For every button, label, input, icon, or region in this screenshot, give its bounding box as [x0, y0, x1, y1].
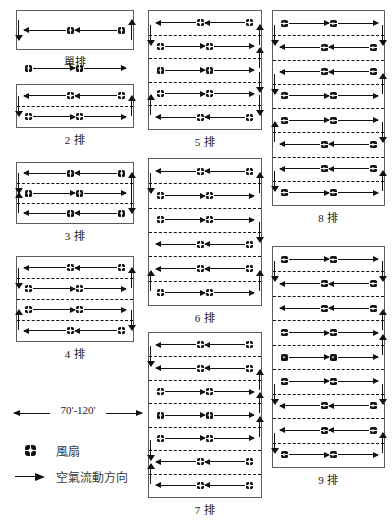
airflow-arrow-right-icon [33, 113, 75, 120]
panel-3: 3 排 [16, 162, 134, 224]
panel-4-separator-1 [17, 278, 133, 279]
airflow-arrow-right-icon [289, 451, 329, 458]
fan-propeller-icon [67, 327, 74, 334]
airflow-arrow-left-icon [205, 458, 245, 465]
airflow-arrow-left-icon [75, 210, 117, 217]
panel-6-flow-row-4 [149, 237, 261, 251]
panel-9-turn-arrow-5 [270, 384, 279, 404]
fan-propeller-icon [246, 114, 253, 121]
panel-8-flow-row-8 [273, 186, 384, 200]
airflow-arrow-right-icon [289, 117, 329, 124]
panel-3-flow-row-2 [17, 186, 133, 200]
airflow-arrow-right-icon [165, 216, 205, 223]
fan-propeller-icon [370, 165, 377, 172]
fan-propeller-icon [370, 280, 377, 287]
fan-propeller-icon [246, 365, 253, 372]
fan-propeller-icon [118, 92, 125, 99]
panel-6-turn-arrow-1 [146, 173, 155, 193]
airflow-arrow-left-icon [75, 27, 117, 34]
airflow-arrow-right-icon [214, 192, 254, 199]
panel-3-flow-row-1 [17, 166, 133, 180]
panel-8-separator-5 [273, 132, 384, 133]
panel-5-turn-arrow-2 [255, 25, 264, 45]
fan-propeller-icon [118, 170, 125, 177]
fan-propeller-icon [76, 306, 83, 313]
airflow-arrow-left-icon [24, 92, 66, 99]
panel-9-separator-3 [273, 320, 384, 321]
airflow-arrow-right-icon [338, 354, 378, 361]
panel-9-flow-row-7 [273, 399, 384, 413]
fan-propeller-icon [370, 305, 377, 312]
panel-8-turn-arrow-3 [270, 74, 279, 94]
panel-5-turn-arrow-3 [255, 48, 264, 68]
airflow-arrow-right-icon [214, 435, 254, 442]
airflow-arrow-right-icon [289, 329, 329, 336]
fan-propeller-icon [330, 256, 337, 263]
panel-2-separator-1 [17, 106, 133, 107]
airflow-arrow-right-icon [165, 43, 205, 50]
airflow-arrow-left-icon [329, 68, 369, 75]
panel-2-caption: 2 排 [16, 131, 134, 147]
fan-propeller-icon [370, 68, 377, 75]
panel-6-flow-row-2 [149, 189, 261, 203]
panel-1-caption: 單排 [16, 53, 134, 69]
panel-4-turn-arrow-3 [14, 310, 23, 330]
panel-9-box [272, 246, 385, 468]
panel-7-flow-row-1 [149, 338, 261, 352]
panel-4-caption: 4 排 [16, 345, 134, 361]
airflow-arrow-left-icon [156, 482, 196, 489]
airflow-arrow-right-icon [338, 256, 378, 263]
panel-9-turn-arrow-1 [270, 261, 279, 281]
airflow-arrow-left-icon [24, 170, 66, 177]
panel-5-flow-row-5 [149, 110, 261, 124]
panel-4-box [16, 256, 134, 342]
airflow-arrow-left-icon [280, 427, 320, 434]
fan-propeller-icon [76, 285, 83, 292]
panel-9-turn-arrow-2 [378, 261, 387, 281]
airflow-arrow-left-icon [205, 168, 245, 175]
panel-2-box [16, 84, 134, 128]
panel-4: 4 排 [16, 256, 134, 342]
panel-7-flow-row-4 [149, 408, 261, 422]
airflow-arrow-left-icon [156, 241, 196, 248]
panel-9-turn-arrow-4 [378, 335, 387, 355]
fan-propeller-icon [67, 170, 74, 177]
panel-8-separator-4 [273, 108, 384, 109]
fan-propeller-icon [246, 19, 253, 26]
airflow-arrow-right-icon [289, 92, 329, 99]
panel-8-flow-row-7 [273, 162, 384, 176]
panel-8-separator-3 [273, 84, 384, 85]
fan-propeller-icon [246, 341, 253, 348]
airflow-arrow-right-icon [214, 412, 254, 419]
fan-propeller-icon [197, 482, 204, 489]
panel-5-separator-3 [149, 82, 261, 83]
fan-propeller-icon [330, 354, 337, 361]
fan-propeller-icon [370, 141, 377, 148]
fan-propeller-icon [281, 256, 288, 263]
fan-propeller-icon [321, 165, 328, 172]
panel-7-turn-arrow-3 [255, 393, 264, 413]
panel-6-separator-1 [149, 183, 261, 184]
panel-1: 單排 [16, 10, 134, 50]
fan-propeller-icon [370, 44, 377, 51]
panel-3-turn-arrow-3 [14, 193, 23, 213]
panel-4-flow-row-4 [17, 324, 133, 338]
panel-5-flow-row-2 [149, 39, 261, 53]
panel-3-turn-arrow-4 [127, 193, 136, 213]
panel-6-flow-row-1 [149, 164, 261, 178]
airflow-arrow-left-icon [75, 170, 117, 177]
dimension-arrow-left-icon [13, 410, 20, 416]
panel-8-turn-arrow-8 [378, 171, 387, 191]
panel-6-caption: 6 排 [148, 309, 262, 325]
panel-5-box [148, 10, 262, 130]
fan-propeller-icon [246, 482, 253, 489]
fan-propeller-icon [246, 458, 253, 465]
airflow-arrow-right-icon [84, 190, 126, 197]
panel-4-flow-row-2 [17, 282, 133, 296]
airflow-arrow-left-icon [156, 265, 196, 272]
panel-7-caption: 7 排 [148, 501, 262, 517]
fan-propeller-icon [157, 435, 164, 442]
panel-3-turn-arrow-1 [14, 173, 23, 193]
airflow-arrow-right-icon [214, 90, 254, 97]
panel-1-box [16, 10, 134, 50]
